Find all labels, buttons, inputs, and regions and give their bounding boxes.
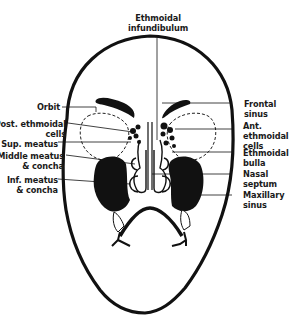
label-line: infundibulum <box>128 23 188 33</box>
label-middle-meatus-concha: Middle meatus & concha <box>0 151 64 171</box>
maxillary-sinus-right <box>169 157 204 212</box>
orbit-right <box>167 113 216 160</box>
label-line: sinus <box>243 200 284 210</box>
maxillary-sinus-left <box>94 157 130 212</box>
hard-palate <box>120 208 182 236</box>
ethmoid-cells-right <box>161 123 177 149</box>
label-post-ethmoidal-cells: Post. ethmoidal cells <box>0 119 66 139</box>
label-line: Orbit <box>37 102 60 112</box>
nasal-septum <box>148 122 152 190</box>
label-ethmoidal-infundibulum: Ethmoidal infundibulum <box>128 13 188 33</box>
label-line: & concha <box>7 185 58 195</box>
label-line: Inf. meatus <box>7 175 58 185</box>
label-line: Frontal <box>244 99 276 109</box>
label-ant-ethmoidal-cells: Ant. ethmoidal cells <box>243 121 289 151</box>
label-orbit: Orbit <box>37 102 60 112</box>
nasal-cavity-right <box>154 140 166 193</box>
label-frontal-sinus: Frontal sinus <box>244 99 276 119</box>
label-line: Ethmoidal <box>128 13 188 23</box>
label-line: Maxillary <box>243 190 284 200</box>
orbit-left <box>80 113 129 160</box>
middle-concha-right <box>163 158 168 170</box>
label-line: bulla <box>243 158 289 168</box>
label-line: Ethmoidal <box>243 148 289 158</box>
leader-lines <box>58 38 232 195</box>
label-ethmoidal-bulla: Ethmoidal bulla <box>243 148 289 168</box>
label-maxillary-sinus: Maxillary sinus <box>243 190 284 210</box>
label-sup-meatus: Sup. meatus <box>1 139 58 149</box>
label-nasal-septum: Nasal septum <box>243 169 277 189</box>
label-inf-meatus-concha: Inf. meatus & concha <box>7 175 58 195</box>
label-line: cells <box>0 129 66 139</box>
label-line: Nasal <box>243 169 277 179</box>
nasal-cavity-left <box>134 140 146 193</box>
frontal-sinus-left <box>95 98 134 118</box>
label-line: septum <box>243 179 277 189</box>
label-line: Sup. meatus <box>1 139 58 149</box>
sinus-diagram: Ethmoidal infundibulum Orbit Post. ethmo… <box>0 0 290 326</box>
label-line: Post. ethmoidal <box>0 119 66 129</box>
label-line: ethmoidal <box>243 131 289 141</box>
label-line: Ant. <box>243 121 289 131</box>
label-line: sinus <box>244 109 276 119</box>
tooth-right <box>181 210 190 230</box>
label-line: Middle meatus <box>0 151 64 161</box>
label-line: & concha <box>0 161 64 171</box>
